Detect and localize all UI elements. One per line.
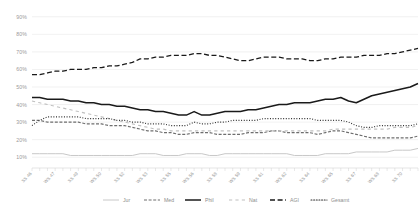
gridlines	[32, 17, 418, 157]
y-axis-tick-label: 30%	[16, 119, 27, 125]
y-axis-tick-label: 80%	[16, 31, 27, 37]
x-axis-tick-label: WS 65	[320, 171, 334, 185]
chart-legend: JurMedPhilNatAGIGesamt	[103, 197, 350, 203]
y-axis-tick-label: 20%	[16, 137, 27, 143]
x-axis-tick-label: WS 50	[89, 171, 103, 185]
data-series	[32, 48, 418, 155]
x-axis-tick-label: SS 61	[252, 171, 265, 184]
x-axis-tick-label: SS 58	[206, 171, 219, 184]
x-axis-tick-label: SS 49	[67, 171, 80, 184]
x-axis-tick-label: WS 68	[367, 171, 381, 185]
x-axis-tick-label: SS 46	[20, 171, 33, 184]
x-axis-tick-label: WS 47	[43, 171, 57, 185]
legend-label-jur: Jur	[123, 197, 130, 203]
legend-label-nat: Nat	[249, 197, 258, 203]
legend-label-phil: Phil	[205, 197, 214, 203]
legend-label-agi: AGI	[290, 197, 299, 203]
legend-label-gesamt: Gesamt	[331, 197, 350, 203]
series-line-phil	[32, 83, 418, 115]
x-axis-tick-label: WS 59	[228, 171, 242, 185]
x-axis-tick-label: SS 67	[345, 171, 358, 184]
series-line-nat	[32, 101, 418, 131]
x-axis-tick-label: SS 55	[159, 171, 172, 184]
line-chart: 90%80%70%60%50%40%30%20%10% SS 46WS 47SS…	[0, 0, 420, 212]
y-axis-labels: 90%80%70%60%50%40%30%20%10%	[16, 14, 27, 160]
series-line-agi	[32, 48, 418, 74]
x-axis	[32, 168, 418, 171]
x-axis-tick-label: WS 53	[135, 171, 149, 185]
y-axis-tick-label: 40%	[16, 102, 27, 108]
y-axis-tick-label: 60%	[16, 66, 27, 72]
series-line-med	[32, 120, 418, 138]
y-axis-tick-label: 10%	[16, 154, 27, 160]
series-line-jur	[32, 148, 418, 155]
x-axis-tick-label: WS 56	[182, 171, 196, 185]
legend-label-med: Med	[164, 197, 174, 203]
x-axis-tick-label: SS 70	[391, 171, 404, 184]
x-axis-tick-label: WS 62	[274, 171, 288, 185]
x-axis-tick-label: SS 64	[298, 171, 311, 184]
y-axis-tick-label: 50%	[16, 84, 27, 90]
x-axis-tick-label: SS 52	[113, 171, 126, 184]
chart-canvas: 90%80%70%60%50%40%30%20%10% SS 46WS 47SS…	[0, 0, 420, 212]
y-axis-tick-label: 90%	[16, 14, 27, 20]
x-axis-labels: SS 46WS 47SS 49WS 50SS 52WS 53SS 55WS 56…	[20, 171, 403, 185]
y-axis-tick-label: 70%	[16, 49, 27, 55]
